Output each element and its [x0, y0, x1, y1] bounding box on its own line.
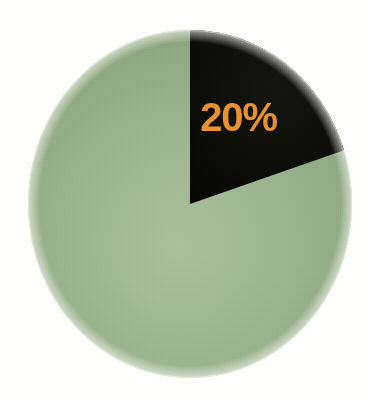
pie-chart-figure: 20% [0, 0, 368, 400]
pie-chart-svg [0, 0, 368, 400]
pie-rim-highlight [28, 30, 352, 378]
